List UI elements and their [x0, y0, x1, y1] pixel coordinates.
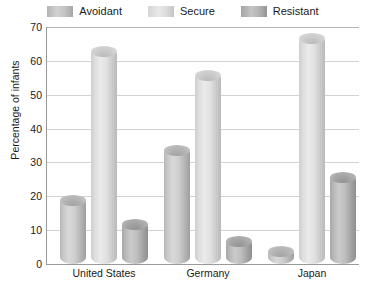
x-tick-japan: Japan: [260, 268, 364, 279]
gridline-20: [47, 196, 359, 197]
y-tick-0: 0: [2, 259, 42, 270]
plot-area: [46, 27, 359, 265]
bar-chart: Avoidant Secure Resistant Percentage of …: [0, 0, 366, 293]
x-axis-ticks: United States Germany Japan: [46, 268, 358, 288]
legend-label-resistant: Resistant: [273, 6, 319, 17]
y-tick-50: 50: [2, 89, 42, 100]
y-tick-10: 10: [2, 225, 42, 236]
legend-item-resistant: Resistant: [241, 6, 319, 17]
legend-swatch-icon-secure: [148, 6, 174, 17]
legend-label-avoidant: Avoidant: [79, 6, 122, 17]
y-tick-70: 70: [2, 22, 42, 33]
chart-legend: Avoidant Secure Resistant: [0, 2, 366, 20]
y-axis-ticks: 70 60 50 40 30 20 10 0: [0, 27, 42, 264]
y-tick-30: 30: [2, 157, 42, 168]
x-tick-united-states: United States: [52, 268, 156, 279]
x-tick-germany: Germany: [156, 268, 260, 279]
gridline-10: [47, 230, 359, 231]
gridline-30: [47, 162, 359, 163]
legend-label-secure: Secure: [180, 6, 215, 17]
legend-swatch-icon-resistant: [241, 6, 267, 17]
gridline-40: [47, 129, 359, 130]
y-tick-20: 20: [2, 191, 42, 202]
legend-swatch-icon-avoidant: [47, 6, 73, 17]
y-tick-60: 60: [2, 56, 42, 67]
gridline-50: [47, 95, 359, 96]
legend-item-secure: Secure: [148, 6, 215, 17]
gridline-60: [47, 61, 359, 62]
legend-item-avoidant: Avoidant: [47, 6, 122, 17]
y-tick-40: 40: [2, 123, 42, 134]
gridline-70: [47, 27, 359, 28]
